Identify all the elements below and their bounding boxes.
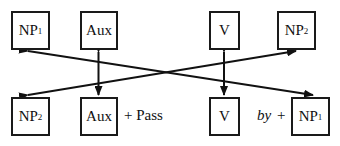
pass-annotation: + Pass [124,107,163,124]
top-aux-label: Aux [86,22,112,39]
bottom-np2-subscript: 2 [38,112,43,122]
bottom-v-box: V [209,97,240,136]
top-np1-box: NP1 [11,11,50,50]
top-np1-subscript: 1 [38,26,43,36]
bottom-np2-label: NP [19,108,38,125]
top-np1-label: NP [19,22,38,39]
bottom-np1-label: NP [299,108,318,125]
bottom-aux-box: Aux [80,97,118,136]
top-v-box: V [209,11,240,50]
top-aux-box: Aux [80,11,118,50]
top-v-label: V [219,22,230,39]
by-annotation: by [257,107,271,124]
bottom-v-label: V [219,108,230,125]
top-np2-box: NP2 [277,11,316,50]
bottom-np1-box: NP1 [291,97,330,136]
top-np2-label: NP [285,22,304,39]
by-plus-annotation: + [277,107,285,124]
top-np2-subscript: 2 [304,26,309,36]
bottom-np2-box: NP2 [11,97,50,136]
bottom-np1-subscript: 1 [318,112,323,122]
bottom-aux-label: Aux [86,108,112,125]
